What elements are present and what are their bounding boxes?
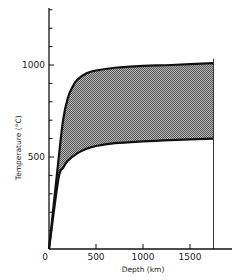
y-tick-label: 1000	[22, 60, 45, 70]
x-tick-label: 500	[87, 252, 104, 262]
x-axis-title: Depth (km)	[122, 265, 165, 274]
x-tick-label: 0	[42, 252, 48, 262]
x-tick-label: 1000	[132, 252, 155, 262]
chart: 5001000050010001500Depth (km)Temperature…	[0, 0, 240, 280]
x-tick-label: 1500	[179, 252, 202, 262]
y-axis-title: Temperature (°C)	[14, 115, 23, 181]
lower-curve	[49, 139, 214, 249]
y-tick-label: 500	[28, 152, 45, 162]
